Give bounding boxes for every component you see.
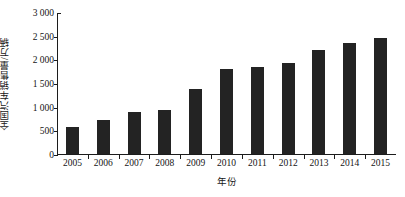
y-axis-tick-label: 3 000 (14, 8, 54, 18)
x-axis-tick-label: 2015 (361, 157, 401, 170)
x-axis-line (57, 154, 396, 155)
y-axis-tick-mark (54, 60, 58, 61)
bar (220, 69, 233, 154)
bar (158, 110, 171, 154)
bar (251, 67, 264, 154)
y-axis-tick-label: 1 000 (14, 103, 54, 113)
y-axis-tick-mark (54, 155, 58, 156)
bar (312, 50, 325, 154)
y-axis-tick-mark (57, 13, 61, 14)
bar (128, 112, 141, 154)
bar (374, 38, 387, 154)
bar-chart-figure: 全国汽车销售量/万辆 05001 0001 5002 0002 5003 000… (0, 0, 405, 197)
y-axis-tick-mark (54, 108, 58, 109)
y-axis-tick-label-group: 05001 0001 5002 0002 5003 000 (14, 0, 54, 197)
y-axis-tick-label: 0 (14, 150, 54, 160)
y-axis-tick-label: 1 500 (14, 79, 54, 89)
x-axis-title: 年份 (57, 176, 396, 188)
y-axis-tick-mark (54, 84, 58, 85)
x-axis-tick-label-group: 2005200620072008200920102011201220132014… (57, 157, 396, 173)
y-axis-tick-label: 500 (14, 126, 54, 136)
y-axis-title: 全国汽车销售量/万辆 (0, 18, 14, 150)
bar (189, 89, 202, 154)
bar (66, 127, 79, 154)
bar (97, 120, 110, 154)
plot-area (57, 13, 396, 155)
y-axis-tick-mark (54, 131, 58, 132)
y-axis-tick-label: 2 000 (14, 55, 54, 65)
y-axis-tick-mark (54, 37, 58, 38)
bar (282, 63, 295, 154)
y-axis-tick-label: 2 500 (14, 32, 54, 42)
bar (343, 43, 356, 154)
